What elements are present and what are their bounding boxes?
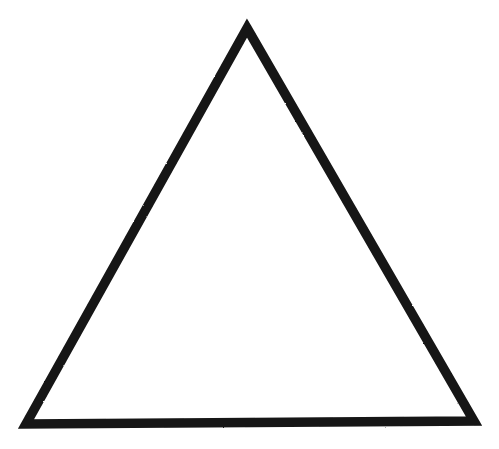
image-canvas xyxy=(0,0,499,449)
background-rect xyxy=(0,0,499,449)
triangle-figure xyxy=(0,0,499,449)
